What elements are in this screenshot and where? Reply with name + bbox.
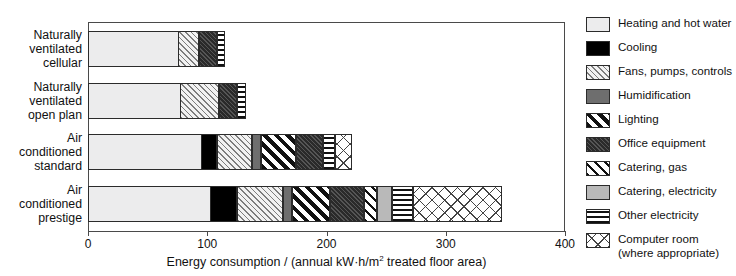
bar-segment <box>261 134 296 170</box>
bar-segment <box>292 186 330 222</box>
category-label-line: prestige <box>0 211 82 225</box>
bar-segment <box>335 134 352 170</box>
x-axis-tick-0 <box>88 231 89 236</box>
legend-item[interactable]: Catering, gas <box>586 160 736 178</box>
bar-segment <box>413 186 502 222</box>
legend-swatch-icon <box>586 89 610 104</box>
category-label-line: Air <box>0 131 82 145</box>
bar-segment <box>88 31 179 67</box>
x-axis-tick-200 <box>327 231 328 236</box>
stacked-bar-chart: 0100200300400 Naturallyventilatedcellula… <box>0 0 736 276</box>
legend-swatch-icon <box>586 233 610 248</box>
bar-segment <box>210 186 237 222</box>
x-axis-title-prefix: Energy consumption / (annual kW·h/m <box>167 255 380 269</box>
bar-segment <box>392 186 412 222</box>
bar-segment <box>180 83 219 119</box>
legend-label: Heating and hot water <box>618 16 731 30</box>
category-label-4: Airconditionedprestige <box>0 183 82 225</box>
bar-segment <box>201 134 217 170</box>
legend-swatch-icon <box>586 17 610 32</box>
category-label-line: open plan <box>0 108 82 122</box>
category-label-3: Airconditionedstandard <box>0 131 82 173</box>
legend-swatch-icon <box>586 137 610 152</box>
legend-item[interactable]: Lighting <box>586 112 736 130</box>
category-label-line: conditioned <box>0 145 82 159</box>
category-label-1: Naturallyventilatedcellular <box>0 28 82 70</box>
bar-segment <box>199 31 217 67</box>
x-axis-tick-400 <box>565 231 566 236</box>
category-label-line: ventilated <box>0 94 82 108</box>
bar-segment <box>88 83 181 119</box>
legend-item[interactable]: Heating and hot water <box>586 16 736 34</box>
x-axis-title: Energy consumption / (annual kW·h/m2 tre… <box>88 254 565 269</box>
x-axis-tick-label-100: 100 <box>197 237 217 251</box>
bar-segment <box>330 186 363 222</box>
bar-segment <box>219 83 237 119</box>
bar-segment <box>323 134 335 170</box>
legend-item[interactable]: Humidification <box>586 88 736 106</box>
legend-item[interactable]: Cooling <box>586 40 736 58</box>
bar-segment <box>377 186 393 222</box>
legend-label: Catering, electricity <box>618 184 717 198</box>
x-axis-tick-300 <box>446 231 447 236</box>
legend-swatch-icon <box>586 113 610 128</box>
legend-label: Catering, gas <box>618 160 687 174</box>
bar-segment <box>88 134 202 170</box>
legend-label: Computer room (where appropriate) <box>618 232 719 259</box>
category-label-line: Air <box>0 183 82 197</box>
bar-segment <box>296 134 323 170</box>
legend-item[interactable]: Fans, pumps, controls <box>586 64 736 82</box>
legend-label: Office equipment <box>618 136 705 150</box>
legend-swatch-icon <box>586 41 610 56</box>
legend-label: Other electricity <box>618 208 699 222</box>
legend-item[interactable]: Other electricity <box>586 208 736 226</box>
legend-label: Cooling <box>618 40 657 54</box>
x-axis-tick-label-300: 300 <box>436 237 456 251</box>
legend-label: Fans, pumps, controls <box>618 64 732 78</box>
legend-item[interactable]: Office equipment <box>586 136 736 154</box>
bar-segment <box>178 31 199 67</box>
bar-segment <box>252 134 262 170</box>
bar-segment <box>217 134 252 170</box>
category-label-line: Naturally <box>0 28 82 42</box>
x-axis-title-suffix: treated floor area) <box>384 255 487 269</box>
x-axis-tick-label-400: 400 <box>555 237 575 251</box>
category-label-line: conditioned <box>0 197 82 211</box>
category-label-line: ventilated <box>0 42 82 56</box>
legend-swatch-icon <box>586 185 610 200</box>
x-axis-tick-label-0: 0 <box>85 237 92 251</box>
category-label-line: cellular <box>0 56 82 70</box>
x-axis-tick-label-200: 200 <box>316 237 336 251</box>
legend-swatch-icon <box>586 65 610 80</box>
legend-item[interactable]: Computer room (where appropriate) <box>586 232 736 262</box>
category-label-line: standard <box>0 159 82 173</box>
bar-segment <box>237 83 245 119</box>
legend-label: Humidification <box>618 88 691 102</box>
bar-segment <box>237 186 282 222</box>
bar-segment <box>217 31 225 67</box>
category-label-line: Naturally <box>0 80 82 94</box>
bar-segment <box>364 186 377 222</box>
legend-swatch-icon <box>586 209 610 224</box>
legend-label: Lighting <box>618 112 659 126</box>
bar-segment <box>283 186 293 222</box>
bar-segment <box>88 186 211 222</box>
legend-swatch-icon <box>586 161 610 176</box>
x-axis-tick-100 <box>207 231 208 236</box>
category-label-2: Naturallyventilatedopen plan <box>0 80 82 122</box>
legend: Heating and hot waterCoolingFans, pumps,… <box>586 16 736 268</box>
legend-item[interactable]: Catering, electricity <box>586 184 736 202</box>
